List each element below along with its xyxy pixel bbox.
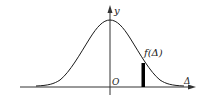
normal-distribution-diagram: y f(Δ) O Δ xyxy=(0,0,207,102)
shaded-strip xyxy=(142,63,146,87)
x-axis-label: Δ xyxy=(183,76,191,86)
y-axis-label: y xyxy=(113,5,120,16)
curve-label: f(Δ) xyxy=(143,47,163,58)
origin-label: O xyxy=(112,77,120,87)
y-axis-arrow-icon xyxy=(108,5,113,13)
